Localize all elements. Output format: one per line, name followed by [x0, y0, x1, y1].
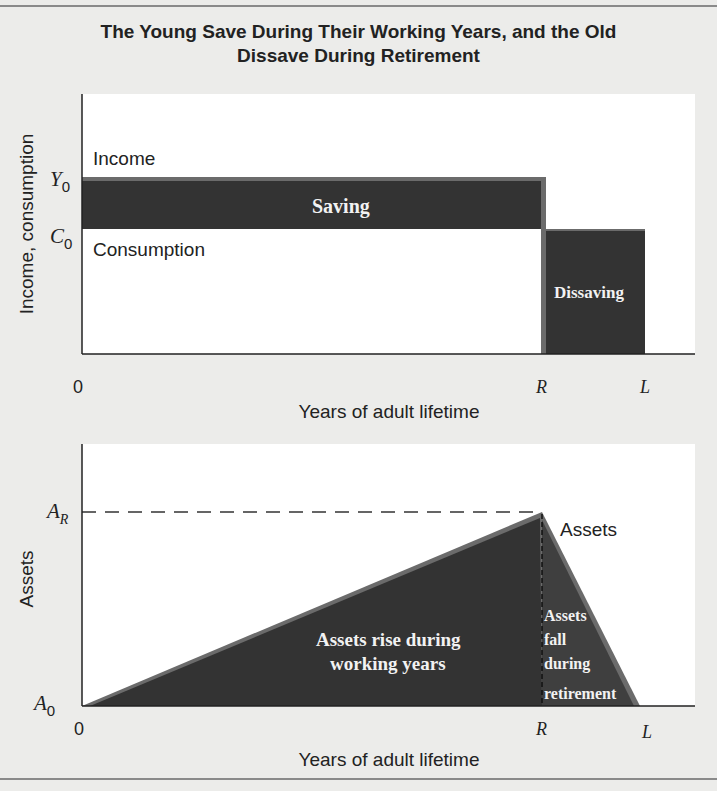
y0-tick-label: Y0	[50, 167, 70, 195]
bottom-y-axis-label: Assets	[16, 550, 37, 607]
top-chart: Income Consumption Saving Dissaving Y0 C…	[16, 94, 695, 422]
dissaving-label: Dissaving	[554, 283, 624, 302]
ar-tick-label: AR	[45, 499, 69, 527]
bottom-rule	[0, 778, 717, 780]
assets-rise-label-1: Assets rise during	[316, 629, 461, 650]
assets-curve-label: Assets	[560, 519, 617, 540]
top-x-tick-r: R	[535, 377, 547, 397]
assets-fall-label-3: during	[544, 655, 590, 673]
c0-tick-label: C0	[50, 224, 72, 252]
figure-svg: Income Consumption Saving Dissaving Y0 C…	[0, 0, 717, 791]
assets-fall-label-1: Assets	[544, 607, 587, 624]
assets-fall-label-4: retirement	[544, 685, 617, 702]
bottom-x-tick-l: L	[641, 722, 652, 742]
assets-rise-label-2: working years	[330, 653, 446, 674]
top-x-tick-0: 0	[73, 377, 83, 397]
bottom-x-axis-label: Years of adult lifetime	[299, 749, 480, 770]
consumption-label: Consumption	[93, 239, 205, 260]
bottom-x-tick-r: R	[535, 719, 547, 739]
top-y-axis-label: Income, consumption	[16, 134, 37, 315]
top-x-tick-l: L	[639, 377, 650, 397]
income-label: Income	[93, 148, 155, 169]
a0-tick-label: A0	[32, 691, 55, 719]
top-x-axis-label: Years of adult lifetime	[299, 401, 480, 422]
bottom-x-tick-0: 0	[74, 719, 84, 739]
assets-fall-label-2: fall	[544, 631, 567, 648]
bottom-chart: Assets Assets rise during working years …	[16, 444, 695, 770]
saving-label: Saving	[312, 195, 370, 218]
